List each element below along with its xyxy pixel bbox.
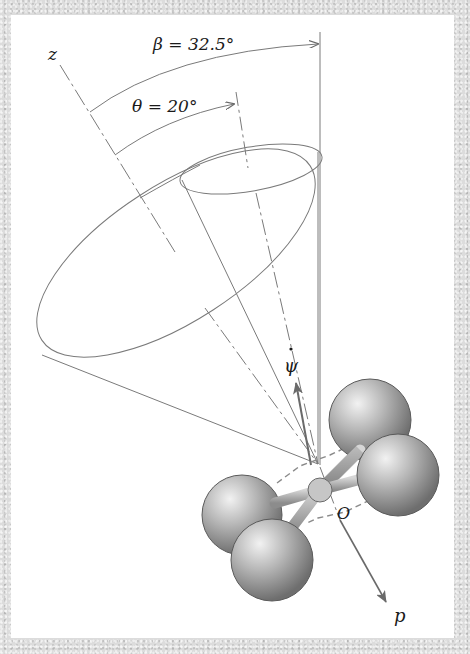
z-axis-line <box>60 65 175 252</box>
small-cone-generator-left <box>182 180 318 464</box>
small-cone-axis-line <box>236 92 248 168</box>
hub <box>308 478 332 502</box>
sphere-right <box>357 434 439 516</box>
cone-arc-line <box>140 165 200 198</box>
large-cone-ellipse <box>5 109 347 397</box>
origin-label: O <box>337 504 350 523</box>
sphere-front-bottom <box>231 519 313 601</box>
p-axis-arrow <box>340 520 386 602</box>
beta-arc <box>90 44 318 112</box>
large-cone-centerline <box>205 308 318 464</box>
psi-dot-marker <box>289 347 292 350</box>
psi-dot-label: ψ <box>284 355 299 376</box>
small-cone-centerline <box>256 193 318 464</box>
precession-diagram: z β = 32.5° θ = 20° ψ O p <box>0 0 470 654</box>
theta-label: θ = 20° <box>132 96 197 116</box>
p-axis-label: p <box>394 605 406 626</box>
small-cone-ellipse <box>176 135 325 203</box>
beta-label: β = 32.5° <box>152 34 234 54</box>
large-cone-generator-left <box>42 355 318 464</box>
z-axis-label: z <box>47 44 58 64</box>
